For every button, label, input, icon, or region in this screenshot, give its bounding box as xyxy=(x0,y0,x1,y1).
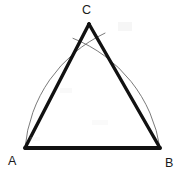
vertex-label-a: A xyxy=(8,155,17,168)
vertex-label-c: C xyxy=(82,4,91,17)
vertex-point-c xyxy=(87,22,91,26)
vertex-point-a xyxy=(23,146,27,150)
vertex-point-b xyxy=(158,146,162,150)
vertex-label-b: B xyxy=(165,157,174,170)
geometry-figure: C A B xyxy=(0,0,181,173)
geometry-canvas xyxy=(0,0,181,173)
